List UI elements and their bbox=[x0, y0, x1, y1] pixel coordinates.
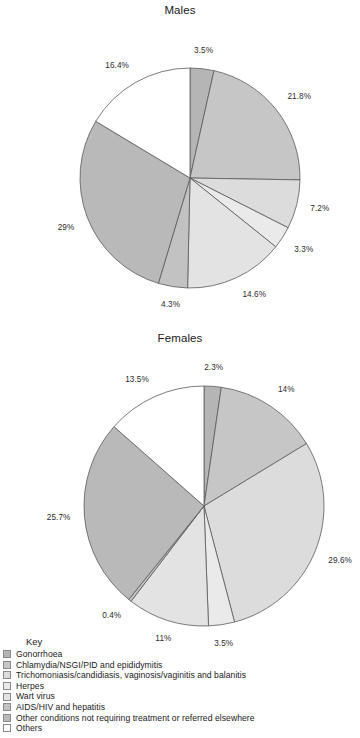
legend-item-label: Wart virus bbox=[16, 691, 55, 702]
figure-root: Males 3.5%21.8%7.2%3.3%14.6%4.3%29%16.4%… bbox=[0, 0, 360, 738]
legend-item-label: Gonorrhoea bbox=[16, 649, 62, 660]
pie-svg-males bbox=[0, 0, 360, 330]
legend-item-5: AIDS/HIV and hepatitis bbox=[3, 702, 355, 713]
legend-swatch-icon-5 bbox=[3, 703, 11, 711]
pie-label-males-3: 3.3% bbox=[294, 245, 313, 254]
pie-label-females-7: 13.5% bbox=[125, 375, 149, 384]
legend-swatch-icon-3 bbox=[3, 682, 11, 690]
legend-item-label: Other conditions not requiring treatment… bbox=[16, 713, 255, 724]
legend-title: Key bbox=[26, 636, 42, 647]
legend: Key GonorrhoeaChlamydia/NSGI/PID and epi… bbox=[0, 636, 360, 738]
pie-label-males-1: 21.8% bbox=[287, 92, 311, 101]
pie-label-females-5: 0.4% bbox=[102, 611, 121, 620]
legend-item-label: Herpes bbox=[16, 681, 44, 692]
pie-chart-males: Males 3.5%21.8%7.2%3.3%14.6%4.3%29%16.4% bbox=[0, 0, 360, 330]
pie-label-females-2: 29.6% bbox=[328, 556, 352, 565]
legend-item-4: Wart virus bbox=[3, 691, 355, 702]
pie-label-females-0: 2.3% bbox=[204, 363, 223, 372]
legend-swatch-icon-1 bbox=[3, 661, 11, 669]
pie-label-males-5: 4.3% bbox=[161, 300, 180, 309]
legend-item-label: Others bbox=[16, 723, 42, 734]
pie-svg-females bbox=[0, 330, 360, 638]
pie-label-males-4: 14.6% bbox=[242, 290, 266, 299]
legend-item-label: Chlamydia/NSGI/PID and epididymitis bbox=[16, 660, 162, 671]
legend-item-6: Other conditions not requiring treatment… bbox=[3, 713, 355, 724]
pie-label-females-1: 14% bbox=[278, 385, 295, 394]
legend-item-7: Others bbox=[3, 723, 355, 734]
pie-label-females-6: 25.7% bbox=[47, 513, 71, 522]
pie-label-males-6: 29% bbox=[58, 223, 75, 232]
pie-label-males-0: 3.5% bbox=[194, 46, 213, 55]
legend-item-1: Chlamydia/NSGI/PID and epididymitis bbox=[3, 660, 355, 671]
legend-item-3: Herpes bbox=[3, 681, 355, 692]
legend-swatch-icon-4 bbox=[3, 693, 11, 701]
legend-item-label: Trichomoniasis/candidiasis, vaginosis/va… bbox=[16, 670, 246, 681]
legend-item-label: AIDS/HIV and hepatitis bbox=[16, 702, 105, 713]
legend-swatch-icon-7 bbox=[3, 724, 11, 732]
pie-chart-females: Females 2.3%14%29.6%3.5%11%0.4%25.7%13.5… bbox=[0, 330, 360, 638]
legend-list: GonorrhoeaChlamydia/NSGI/PID and epididy… bbox=[3, 649, 355, 734]
pie-label-males-2: 7.2% bbox=[310, 203, 329, 212]
legend-swatch-icon-2 bbox=[3, 671, 11, 679]
legend-swatch-icon-0 bbox=[3, 650, 11, 658]
pie-label-males-7: 16.4% bbox=[105, 61, 129, 70]
legend-item-2: Trichomoniasis/candidiasis, vaginosis/va… bbox=[3, 670, 355, 681]
legend-item-0: Gonorrhoea bbox=[3, 649, 355, 660]
legend-swatch-icon-6 bbox=[3, 714, 11, 722]
